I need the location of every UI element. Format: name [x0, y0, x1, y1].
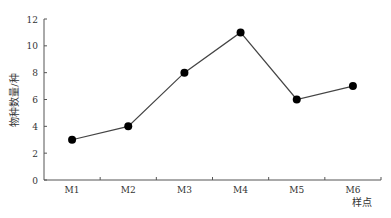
y-axis-label: 物种数量/种	[8, 73, 20, 126]
y-tick-label: 10	[27, 41, 39, 51]
y-tick-label: 4	[32, 122, 38, 132]
data-point-marker	[237, 28, 245, 36]
x-axis-label: 样点	[352, 196, 372, 208]
data-series	[68, 28, 357, 143]
series-line	[72, 32, 353, 139]
data-point-marker	[180, 69, 188, 77]
data-point-marker	[349, 82, 357, 90]
y-tick-label: 0	[32, 176, 38, 186]
x-tick-label: M1	[65, 185, 80, 195]
y-tick-label: 8	[32, 68, 38, 78]
line-chart: 024681012 M1M2M3M4M5M6 物种数量/种 样点	[0, 0, 391, 218]
y-tick-label: 12	[27, 15, 38, 25]
axes	[44, 19, 381, 180]
x-tick-label: M5	[289, 185, 304, 195]
x-tick-label: M2	[121, 185, 136, 195]
y-tick-label: 6	[32, 95, 38, 105]
x-tick-label: M4	[233, 185, 248, 195]
data-point-marker	[124, 122, 132, 130]
data-point-marker	[293, 96, 301, 104]
data-point-marker	[68, 136, 76, 144]
y-tick-label: 2	[32, 149, 38, 159]
x-tick-label: M6	[345, 185, 360, 195]
x-tick-label: M3	[177, 185, 192, 195]
